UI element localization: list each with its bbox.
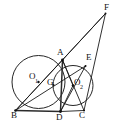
label-g: G bbox=[47, 78, 54, 87]
label-o1: O1 bbox=[29, 72, 39, 83]
point-f bbox=[105, 13, 107, 15]
label-o2: O2 bbox=[74, 78, 84, 89]
label-o2-subscript: 2 bbox=[80, 84, 83, 90]
point-e bbox=[85, 65, 87, 67]
label-f: F bbox=[104, 3, 109, 12]
segment-c-f bbox=[84, 14, 106, 111]
point-a bbox=[61, 59, 64, 62]
label-c: C bbox=[79, 111, 85, 120]
segment-b-d bbox=[16, 111, 61, 112]
segment-a-o2 bbox=[63, 60, 74, 86]
label-b: B bbox=[11, 111, 17, 120]
label-e: E bbox=[86, 53, 92, 62]
geometry-figure: A B C D E F G O1 O2 bbox=[0, 0, 123, 132]
label-d: D bbox=[56, 113, 63, 122]
label-o1-subscript: 1 bbox=[35, 78, 38, 84]
label-a: A bbox=[57, 48, 64, 57]
